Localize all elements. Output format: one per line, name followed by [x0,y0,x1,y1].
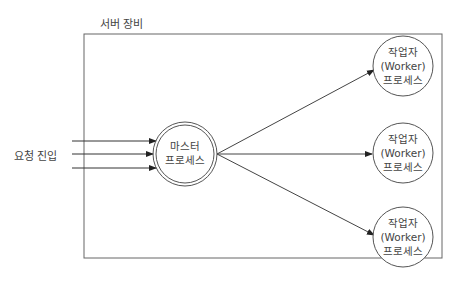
worker-label-line2: (Worker) [373,146,433,160]
worker-label-line1: 작업자 [373,132,433,146]
worker-label-line3: 프로세스 [373,73,433,87]
master-label-line1: 마스터 [153,139,217,153]
worker-label-3: 작업자 (Worker) 프로세스 [373,216,433,258]
worker-label-line3: 프로세스 [373,160,433,174]
input-label: 요청 진입 [14,147,58,163]
worker-label-1: 작업자 (Worker) 프로세스 [373,45,433,87]
master-label: 마스터 프로세스 [153,139,217,167]
worker-label-line2: (Worker) [373,59,433,73]
output-arrows [217,70,374,235]
worker-label-line2: (Worker) [373,230,433,244]
container-label: 서버 장비 [100,15,144,31]
input-arrows [72,141,156,168]
worker-label-line1: 작업자 [373,216,433,230]
master-label-line2: 프로세스 [153,153,217,167]
worker-label-2: 작업자 (Worker) 프로세스 [373,132,433,174]
worker-label-line3: 프로세스 [373,244,433,258]
worker-label-line1: 작업자 [373,45,433,59]
